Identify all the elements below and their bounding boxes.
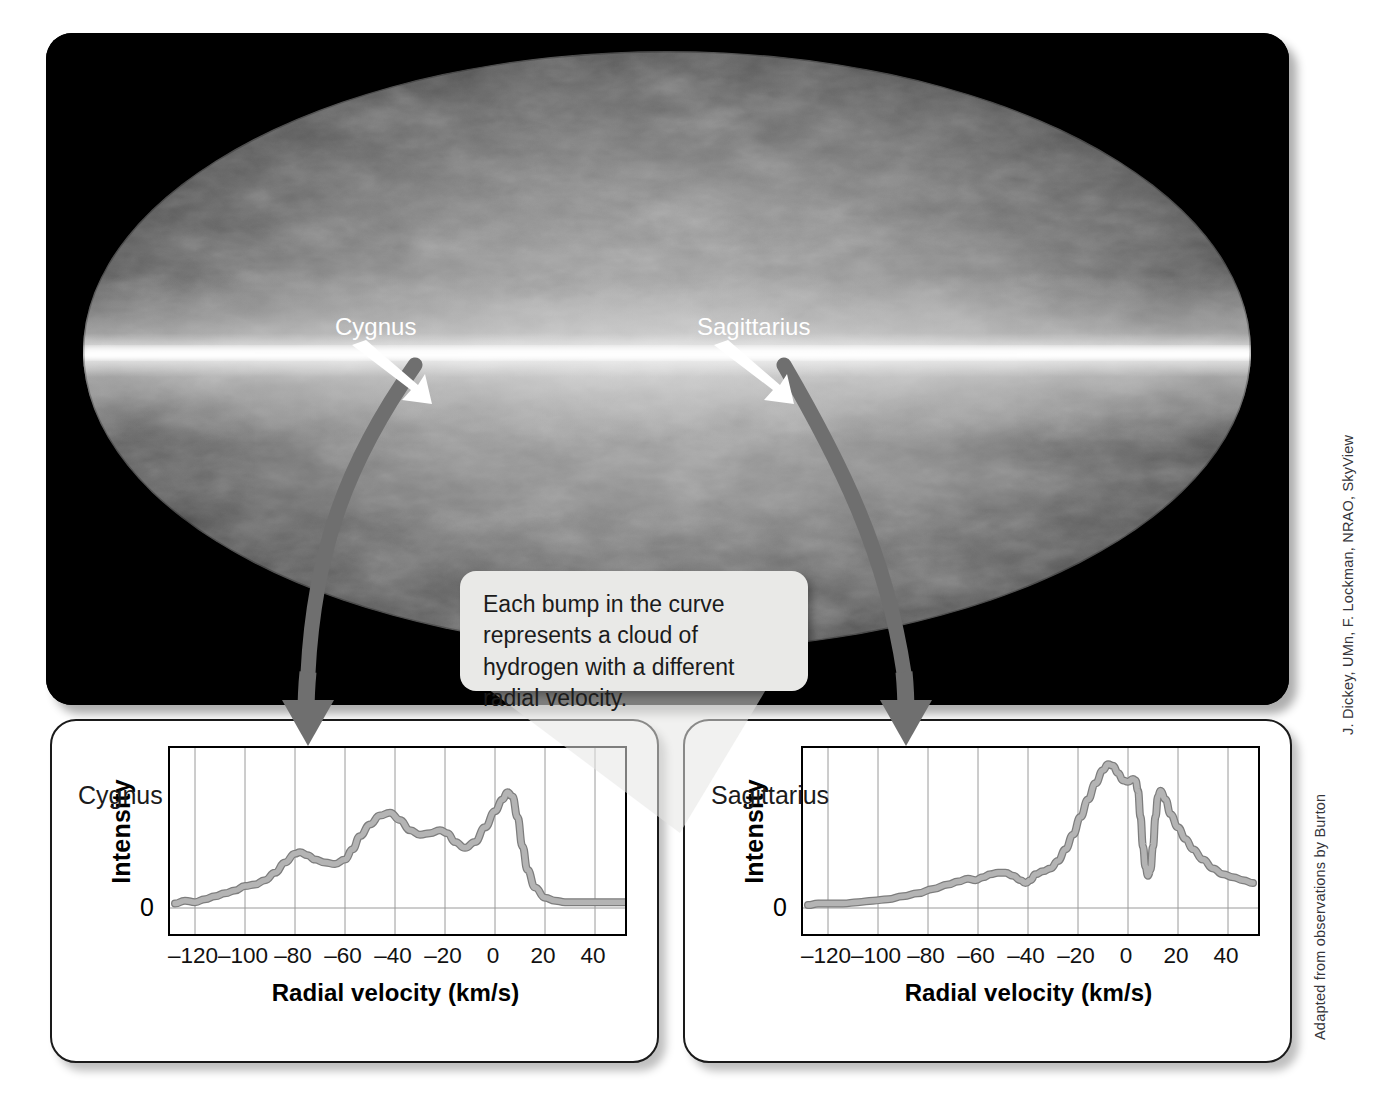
x-axis-tick-label: 20 <box>530 943 555 969</box>
x-axis-tick-label: –80 <box>274 943 312 969</box>
x-axis-ticks-sagittarius: –120–100–80–60–40–2002040 <box>801 943 1256 973</box>
credit-source: Adapted from observations by Burton <box>1312 794 1328 1040</box>
x-axis-tick-label: –120 <box>168 943 218 969</box>
plot-svg-cygnus <box>170 748 625 934</box>
chart-card-cygnus: Intensity 0 Cygnus –120–100–80–60–40–200… <box>50 719 659 1063</box>
x-axis-tick-label: –100 <box>851 943 901 969</box>
x-axis-tick-label: 40 <box>580 943 605 969</box>
x-axis-tick-label: –40 <box>374 943 412 969</box>
plot-area-sagittarius <box>801 746 1260 936</box>
callout-bubble: Each bump in the curve represents a clou… <box>460 571 808 691</box>
x-axis-tick-label: –40 <box>1007 943 1045 969</box>
x-axis-tick-label: –20 <box>1057 943 1095 969</box>
x-axis-ticks-cygnus: –120–100–80–60–40–2002040 <box>168 943 623 973</box>
x-axis-tick-label: –60 <box>957 943 995 969</box>
x-axis-label: Radial velocity (km/s) <box>801 979 1256 1007</box>
series-label-sagittarius: Sagittarius <box>711 781 829 810</box>
skymap-marker-cygnus: Cygnus <box>335 313 416 341</box>
x-axis-tick-label: –60 <box>324 943 362 969</box>
y-axis-label: Intensity <box>107 757 136 907</box>
chart-card-sagittarius: Intensity 0 Sagittarius –120–100–80–60–4… <box>683 719 1292 1063</box>
x-axis-tick-label: 0 <box>1120 943 1133 969</box>
series-label-cygnus: Cygnus <box>78 781 163 810</box>
x-axis-tick-label: 0 <box>487 943 500 969</box>
y-axis-zero-label: 0 <box>773 893 787 922</box>
y-axis-zero-label: 0 <box>140 893 154 922</box>
x-axis-tick-label: –120 <box>801 943 851 969</box>
skymap-marker-label: Cygnus <box>335 313 416 340</box>
x-axis-tick-label: –100 <box>218 943 268 969</box>
x-axis-tick-label: –80 <box>907 943 945 969</box>
skymap-marker-label: Sagittarius <box>697 313 810 340</box>
plot-svg-sagittarius <box>803 748 1258 934</box>
x-axis-tick-label: 40 <box>1213 943 1238 969</box>
x-axis-label: Radial velocity (km/s) <box>168 979 623 1007</box>
y-axis-label: Intensity <box>740 757 769 907</box>
plot-area-cygnus <box>168 746 627 936</box>
callout-text: Each bump in the curve represents a clou… <box>483 589 795 714</box>
skymap-marker-sagittarius: Sagittarius <box>697 313 810 341</box>
x-axis-tick-label: 20 <box>1163 943 1188 969</box>
x-axis-tick-label: –20 <box>424 943 462 969</box>
credit-map: J. Dickey, UMn, F. Lockman, NRAO, SkyVie… <box>1340 435 1356 735</box>
